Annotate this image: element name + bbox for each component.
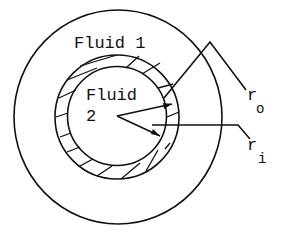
inner-radius-subscript: i bbox=[258, 151, 266, 167]
fluid-1-label: Fluid 1 bbox=[74, 34, 145, 53]
inner-radius-leader-line bbox=[152, 125, 250, 139]
fluid-2-label-line1: Fluid bbox=[86, 86, 137, 105]
outer-radius-subscript: o bbox=[256, 101, 264, 117]
inner-radius-symbol: r bbox=[247, 136, 257, 155]
pipe-outer-wall-circle bbox=[55, 55, 179, 179]
fluid-2-label-line2: 2 bbox=[86, 107, 96, 126]
inner-radius-arrow bbox=[117, 116, 160, 136]
pipe-cross-section-diagram: Fluid 1 Fluid 2 r o r i bbox=[0, 0, 286, 234]
outer-radius-leader-line bbox=[164, 42, 246, 98]
